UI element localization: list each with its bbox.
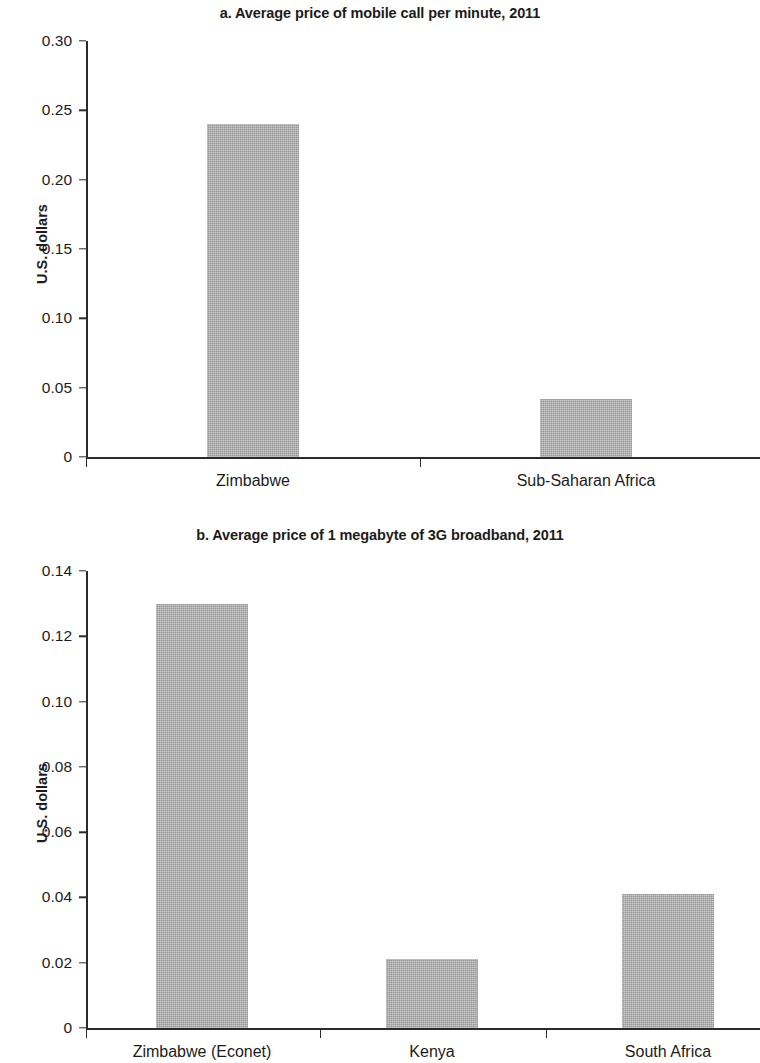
chart-panel-a: a. Average price of mobile call per minu… — [0, 0, 760, 500]
y-tick-label: 0.14 — [42, 562, 72, 580]
x-tick-mark — [420, 457, 421, 467]
x-category-label: Zimbabwe — [216, 472, 290, 490]
y-tick-mark — [79, 636, 86, 637]
chart-b-y-axis-line — [86, 571, 88, 1029]
y-tick-mark — [79, 110, 86, 111]
chart-b-x-axis-line — [86, 1028, 760, 1030]
y-tick-label: 0.06 — [42, 823, 72, 841]
x-category-label: Sub-Saharan Africa — [517, 472, 656, 490]
chart-a-plot-area: 00.050.100.150.200.250.30 — [86, 41, 760, 457]
x-tick-mark — [86, 457, 87, 467]
bar — [622, 894, 714, 1028]
y-tick-mark — [79, 248, 86, 249]
x-category-label: Zimbabwe (Econet) — [133, 1043, 272, 1061]
y-tick-label: 0.25 — [42, 101, 72, 119]
x-category-label: South Africa — [625, 1043, 711, 1061]
y-tick-label: 0.10 — [42, 693, 72, 711]
y-tick-mark — [79, 962, 86, 963]
y-tick-mark — [79, 387, 86, 388]
y-tick-label: 0.08 — [42, 758, 72, 776]
y-tick-mark — [79, 179, 86, 180]
bar — [207, 124, 299, 457]
y-tick-mark — [79, 897, 86, 898]
chart-a-title: a. Average price of mobile call per minu… — [0, 5, 760, 21]
y-tick-label: 0.10 — [42, 309, 72, 327]
chart-a-x-axis-line — [86, 457, 760, 459]
y-tick-label: 0 — [63, 1019, 72, 1037]
chart-a-y-axis-line — [86, 41, 88, 458]
x-tick-mark — [546, 1028, 547, 1038]
y-tick-label: 0.04 — [42, 888, 72, 906]
x-category-label: Kenya — [409, 1043, 454, 1061]
y-tick-mark — [79, 1027, 86, 1028]
bar — [386, 959, 478, 1028]
y-tick-mark — [79, 456, 86, 457]
y-tick-mark — [79, 766, 86, 767]
x-tick-mark — [320, 1028, 321, 1038]
y-tick-mark — [79, 570, 86, 571]
y-tick-mark — [79, 318, 86, 319]
chart-b-plot-area: 00.020.040.060.080.100.120.14 — [86, 571, 760, 1028]
y-tick-label: 0.02 — [42, 954, 72, 972]
y-tick-label: 0.20 — [42, 171, 72, 189]
bar — [540, 399, 632, 457]
y-tick-label: 0.05 — [42, 379, 72, 397]
chart-panel-b: b. Average price of 1 megabyte of 3G bro… — [0, 505, 760, 1063]
y-tick-label: 0.12 — [42, 627, 72, 645]
y-tick-label: 0 — [63, 448, 72, 466]
y-tick-mark — [79, 40, 86, 41]
y-tick-mark — [79, 701, 86, 702]
bar — [156, 604, 248, 1028]
x-tick-mark — [86, 1028, 87, 1038]
y-tick-mark — [79, 831, 86, 832]
y-tick-label: 0.30 — [42, 32, 72, 50]
chart-b-title: b. Average price of 1 megabyte of 3G bro… — [0, 527, 760, 543]
y-tick-label: 0.15 — [42, 240, 72, 258]
